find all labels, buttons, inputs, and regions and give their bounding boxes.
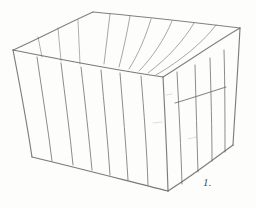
stray-mark-2 — [188, 137, 196, 139]
stray-mark-1 — [153, 122, 162, 123]
stray-mark-3 — [166, 94, 172, 95]
right-slat-2 — [195, 65, 198, 172]
right-panel-slats — [177, 50, 225, 184]
cross-brace-line — [175, 87, 226, 103]
front-slat-4 — [101, 70, 110, 175]
front-corner-post — [163, 77, 168, 191]
stray-marks — [153, 94, 196, 139]
rim-edge-back-right — [93, 12, 240, 28]
front-slat-1 — [37, 57, 52, 161]
rim-edge-right-front — [163, 28, 240, 77]
inner-back-slat-1 — [104, 14, 110, 64]
front-panel-slats — [37, 57, 148, 185]
front-slat-6 — [141, 76, 148, 185]
front-slat-3 — [81, 67, 92, 170]
base-edge-front-right — [168, 145, 233, 191]
front-slat-5 — [120, 73, 128, 180]
sketch-canvas: 1. — [0, 0, 256, 208]
corner-posts — [13, 28, 240, 191]
box-rim — [13, 12, 240, 77]
right-panel-cross-brace — [175, 87, 226, 103]
inner-left-slat-2 — [58, 28, 61, 61]
inner-left-slat-3 — [78, 20, 80, 64]
front-slat-2 — [61, 63, 73, 165]
inner-back-slat-4 — [139, 21, 172, 71]
rim-edge-left-back — [13, 12, 93, 50]
right-corner-post — [233, 28, 240, 145]
inner-left-wall-slats — [38, 20, 80, 64]
inner-left-slat-1 — [38, 37, 42, 57]
left-corner-post — [13, 50, 32, 157]
inner-back-slat-6 — [156, 25, 216, 75]
right-slat-3 — [210, 58, 212, 161]
right-slat-1 — [177, 72, 182, 184]
crate-sketch — [0, 0, 256, 208]
inner-back-slat-2 — [119, 16, 130, 67]
right-slat-4 — [224, 50, 225, 152]
rim-edge-front-left — [13, 50, 163, 77]
figure-number-label: 1. — [203, 176, 212, 188]
